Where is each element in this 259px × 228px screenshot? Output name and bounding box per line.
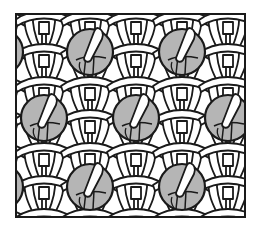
stitch-bar xyxy=(85,88,95,100)
stitch-bar xyxy=(39,0,49,1)
stitch-bar xyxy=(223,154,233,166)
stitch-leg-left xyxy=(255,181,259,215)
bobble-inner-line xyxy=(0,192,16,195)
bobble xyxy=(67,163,113,210)
stitch-bar xyxy=(0,220,3,228)
stitch-pattern-canvas xyxy=(0,0,259,228)
stitch-bar xyxy=(223,187,233,199)
stitch-cell xyxy=(245,209,259,228)
yarn-loop-arc xyxy=(245,176,259,191)
bobble-inner-line xyxy=(47,122,48,140)
bobble-inner-line xyxy=(139,122,140,140)
yarn-strand xyxy=(226,1,230,14)
stitch-bar xyxy=(39,220,49,228)
bobble xyxy=(159,28,205,75)
bobble-inner-line xyxy=(3,191,4,209)
stitch-bar xyxy=(0,55,3,67)
stitch-cell xyxy=(245,77,259,116)
stitch-cell xyxy=(245,44,259,83)
stitch-leg-left xyxy=(255,148,259,182)
stitch-bar xyxy=(0,187,3,199)
stitch-bar xyxy=(39,154,49,166)
stitch-bar xyxy=(131,220,141,228)
stitch-bar xyxy=(177,88,187,100)
stitch-bar xyxy=(39,55,49,67)
stitch-leg-left xyxy=(255,82,259,116)
stitch-bar xyxy=(223,22,233,34)
bobble-inner-line xyxy=(231,122,232,140)
stitch-bar xyxy=(131,187,141,199)
stitch-cell xyxy=(245,0,259,17)
yarn-strand xyxy=(134,1,138,14)
stitch-bar xyxy=(177,0,187,1)
bobble xyxy=(113,94,159,141)
bobble-inner-line xyxy=(185,56,186,74)
stitch-bar xyxy=(39,22,49,34)
stitch-bar xyxy=(0,154,3,166)
stitch-bar xyxy=(131,55,141,67)
stitch-bar xyxy=(85,121,95,133)
stitch-leg-left xyxy=(255,0,259,17)
knitting-diagram xyxy=(0,0,259,228)
yarn-strand xyxy=(180,1,184,14)
stitch-bar xyxy=(223,55,233,67)
bobble-inner-line xyxy=(3,56,4,74)
stitch-bar xyxy=(85,220,95,228)
bobble xyxy=(159,163,205,210)
stitch-bar xyxy=(131,154,141,166)
stitch-bar xyxy=(223,0,233,1)
stitch-bar xyxy=(131,22,141,34)
stitch-cell xyxy=(245,143,259,182)
yarn-loop-arc xyxy=(245,110,259,125)
bobble xyxy=(67,28,113,75)
stitch-bar xyxy=(177,121,187,133)
bobble-inner-line xyxy=(93,56,94,74)
stitch-cell xyxy=(245,176,259,215)
stitch-bar xyxy=(0,0,3,1)
stitch-leg-left xyxy=(255,115,259,149)
stitch-bar xyxy=(177,220,187,228)
yarn-loop-arc xyxy=(245,143,259,158)
bobble-diagonal-stitch xyxy=(0,163,13,197)
stitch-leg-left xyxy=(255,214,259,228)
stitch-bar xyxy=(223,220,233,228)
pattern-area xyxy=(0,0,259,228)
yarn-loop-arc xyxy=(245,11,259,26)
stitch-bar xyxy=(39,187,49,199)
stitch-cell xyxy=(245,110,259,149)
bobble xyxy=(21,94,67,141)
stitch-bar xyxy=(131,0,141,1)
bobble-inner-line xyxy=(93,191,94,209)
bobble-inner-line xyxy=(0,57,16,60)
stitch-bar xyxy=(0,88,3,100)
stitch-bar xyxy=(0,22,3,34)
stitch-bar xyxy=(0,121,3,133)
yarn-loop-arc xyxy=(245,209,259,224)
yarn-strand xyxy=(88,1,92,14)
yarn-loop-arc xyxy=(245,77,259,92)
yarn-loop-arc xyxy=(245,44,259,59)
yarn-strand xyxy=(42,1,46,14)
stitch-leg-left xyxy=(255,49,259,83)
bobble-diagonal-stitch xyxy=(0,28,13,62)
stitch-cell xyxy=(245,11,259,50)
stitch-leg-left xyxy=(255,16,259,50)
bobble-inner-line xyxy=(185,191,186,209)
stitch-bar xyxy=(85,0,95,1)
